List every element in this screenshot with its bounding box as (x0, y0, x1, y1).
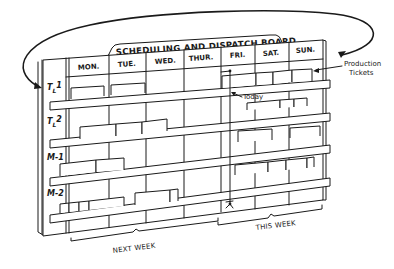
scheduling-board-illustration: SCHEDULING AND DISPATCH BOARD MON. TUE. … (0, 0, 394, 269)
day-thur: THUR. (189, 53, 214, 63)
row-label-m1: M-1 (47, 153, 64, 162)
today-label: Today (242, 93, 263, 101)
next-week-label: NEXT WEEK (112, 242, 156, 255)
day-sun: SUN. (296, 46, 316, 55)
day-sat: SAT. (263, 49, 280, 58)
day-wed: WED. (155, 57, 176, 66)
day-tue: TUE. (118, 60, 136, 69)
production-label-line1: Production (344, 60, 381, 68)
row-label-m2: M-2 (47, 189, 64, 198)
day-fri: FRI. (230, 51, 246, 60)
day-mon: MON. (78, 63, 100, 72)
production-label-line2: Tickets (348, 69, 374, 77)
this-week-label: THIS WEEK (254, 219, 296, 232)
